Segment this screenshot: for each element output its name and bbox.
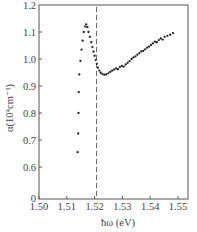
data-point: [85, 23, 87, 25]
data-point: [169, 34, 171, 36]
x-tick-label: 1.55: [169, 201, 187, 212]
data-point: [162, 38, 164, 40]
y-axis-title: α(10⁴cm⁻¹): [4, 83, 16, 132]
x-tick-label: 1.52: [85, 201, 103, 212]
data-point: [113, 68, 115, 70]
data-point: [109, 71, 111, 73]
data-point: [136, 54, 138, 56]
data-point: [96, 63, 98, 65]
data-point: [121, 65, 123, 67]
data-point: [164, 36, 166, 38]
data-point: [127, 62, 129, 64]
data-point: [91, 46, 93, 48]
x-tick-label: 1.54: [141, 201, 160, 212]
data-point: [77, 112, 79, 114]
data-point: [84, 25, 86, 27]
data-point: [152, 42, 154, 44]
absorption-chart: 1.501.511.521.531.541.55 00.60.70.80.91.…: [0, 0, 197, 232]
data-point: [156, 41, 158, 43]
data-point: [77, 132, 79, 134]
data-point: [111, 69, 113, 71]
data-point: [128, 60, 130, 62]
data-point: [150, 44, 152, 46]
data-point: [95, 59, 97, 61]
x-tick-label: 1.53: [113, 201, 131, 212]
data-point: [142, 50, 144, 52]
data-point: [76, 151, 78, 153]
data-point: [146, 47, 148, 49]
data-points: [76, 23, 174, 153]
data-point: [172, 32, 174, 34]
y-tick-label: 0.8: [23, 108, 36, 119]
data-point: [86, 26, 88, 28]
data-point: [80, 48, 82, 50]
data-point: [119, 66, 121, 68]
data-point: [148, 45, 150, 47]
data-point: [93, 55, 95, 57]
data-point: [90, 41, 92, 43]
data-point: [132, 56, 134, 58]
x-tick-label: 1.51: [58, 201, 76, 212]
data-point: [107, 72, 109, 74]
data-point: [140, 50, 142, 52]
y-tick-label: 1.2: [23, 0, 36, 11]
data-point: [158, 39, 160, 41]
y-tick-label: 0.6: [23, 162, 36, 173]
data-point: [166, 35, 168, 37]
axes-box: [39, 5, 188, 199]
x-axis-ticks: 1.501.511.521.531.541.55: [30, 196, 187, 212]
data-point: [98, 69, 100, 71]
data-point: [130, 58, 132, 60]
data-point: [134, 55, 136, 57]
plot-frame: [39, 5, 188, 199]
data-point: [87, 31, 89, 33]
data-point: [83, 31, 85, 33]
data-point: [144, 48, 146, 50]
data-point: [154, 41, 156, 43]
data-point: [78, 91, 80, 93]
data-point: [160, 37, 162, 39]
x-axis-title: ħω (eV): [101, 217, 136, 229]
data-point: [79, 60, 81, 62]
data-point: [117, 68, 119, 70]
y-tick-label: 0.7: [23, 135, 36, 146]
data-point: [105, 73, 107, 75]
y-tick-label: 0.9: [23, 81, 36, 92]
data-point: [103, 74, 105, 76]
y-tick-label: 1.1: [23, 27, 36, 38]
data-point: [97, 66, 99, 68]
data-point: [101, 73, 103, 75]
y-tick-label: 0: [31, 193, 36, 204]
data-point: [125, 63, 127, 65]
data-point: [123, 65, 125, 67]
data-point: [81, 39, 83, 41]
data-point: [89, 36, 91, 38]
data-point: [78, 73, 80, 75]
data-point: [138, 52, 140, 54]
data-point: [92, 51, 94, 53]
y-tick-label: 1.0: [23, 54, 36, 65]
